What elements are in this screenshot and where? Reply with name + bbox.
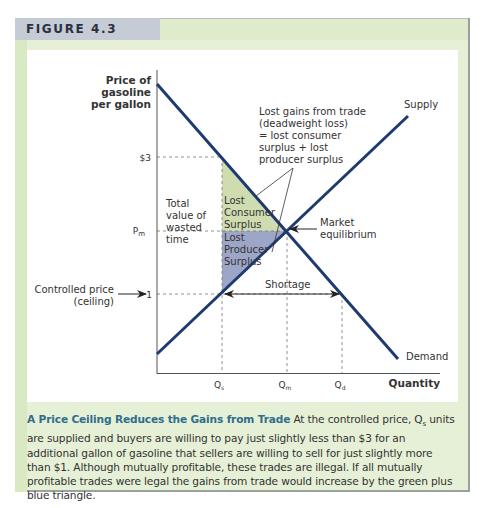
controlled-price-label: Controlled price (ceiling): [35, 284, 115, 307]
svg-text:Surplus: Surplus: [224, 256, 261, 267]
caption-body-2: units are supplied and buyers are willin…: [27, 413, 455, 501]
svg-text:Total: Total: [165, 198, 189, 209]
svg-text:Price of: Price of: [106, 74, 152, 86]
figure-caption: A Price Ceiling Reduces the Gains from T…: [27, 412, 459, 502]
svg-text:Controlled price: Controlled price: [35, 284, 115, 295]
y-tick-1: 1: [146, 290, 152, 300]
demand-label: Demand: [406, 351, 448, 362]
y-tick-pm: Pm: [133, 226, 145, 238]
svg-text:Producer: Producer: [224, 244, 269, 255]
x-tick-qm: Qm: [279, 380, 292, 391]
svg-text:surplus + lost: surplus + lost: [259, 142, 328, 153]
x-axis-title: Quantity: [389, 377, 441, 389]
svg-text:(ceiling): (ceiling): [74, 296, 115, 307]
wasted-time-label: Total value of wasted time: [165, 198, 207, 245]
svg-text:Market: Market: [320, 217, 354, 228]
svg-text:producer surplus: producer surplus: [259, 154, 343, 165]
x-tick-qd: Qd: [335, 380, 346, 391]
svg-text:wasted: wasted: [166, 222, 202, 233]
svg-text:time: time: [166, 234, 189, 245]
svg-text:Consumer: Consumer: [224, 207, 276, 218]
svg-text:Lost gains from trade: Lost gains from trade: [259, 106, 366, 117]
market-equilibrium-label: Market equilibrium: [320, 217, 377, 240]
deadweight-loss-label: Lost gains from trade (deadweight loss) …: [259, 106, 366, 165]
svg-text:equilibrium: equilibrium: [320, 229, 377, 240]
caption-title: A Price Ceiling Reduces the Gains from T…: [27, 413, 290, 425]
svg-text:Lost: Lost: [224, 232, 245, 243]
shortage-label: Shortage: [265, 279, 310, 290]
caption-body-1: At the controlled price, Q: [290, 413, 422, 425]
svg-text:Surplus: Surplus: [224, 219, 261, 230]
svg-text:Lost: Lost: [224, 195, 245, 206]
svg-text:= lost consumer: = lost consumer: [259, 130, 342, 141]
y-tick-3: $3: [140, 153, 151, 163]
svg-text:per gallon: per gallon: [91, 98, 151, 110]
pointer-line-producer: [272, 168, 293, 252]
svg-text:(deadweight loss): (deadweight loss): [259, 118, 348, 129]
svg-text:gasoline: gasoline: [101, 86, 151, 98]
svg-text:value of: value of: [166, 210, 207, 221]
x-tick-qs: Qs: [214, 380, 224, 391]
supply-label: Supply: [404, 99, 438, 110]
y-axis-title: Price of gasoline per gallon: [91, 74, 151, 110]
